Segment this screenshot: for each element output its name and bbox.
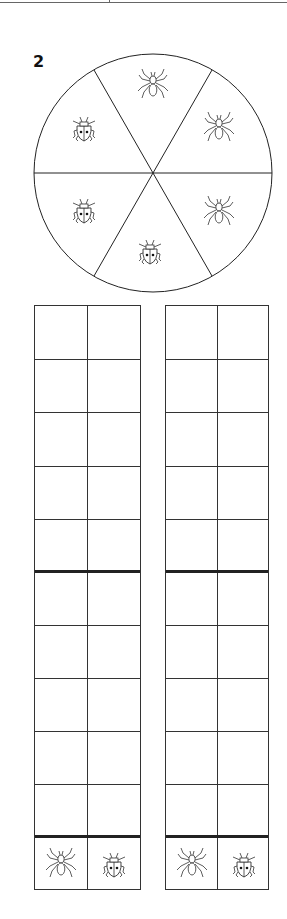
spider-icon: [35, 838, 87, 890]
ladybug-icon: [88, 838, 140, 890]
spider-icon: [166, 838, 217, 890]
ladybug-icon: [218, 838, 269, 890]
spinner: [0, 0, 287, 300]
tally-grid-left: [34, 305, 141, 890]
tally-grid-right: [165, 305, 269, 890]
